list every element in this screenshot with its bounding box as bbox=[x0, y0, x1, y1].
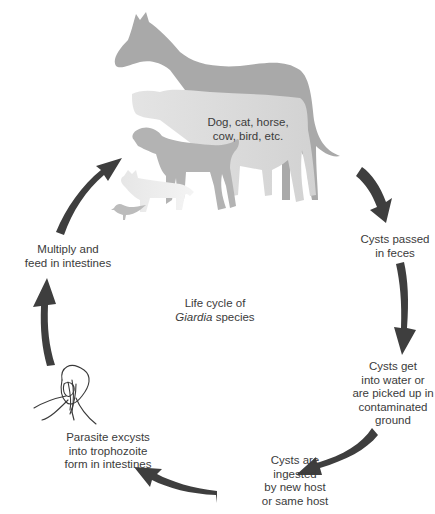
stage-line: feed in intestines bbox=[18, 257, 118, 271]
stage-line: Multiply and bbox=[18, 243, 118, 257]
stage-line: Cysts passed bbox=[355, 233, 435, 247]
stage-excystation: Parasite excysts into trophozoite form i… bbox=[58, 431, 158, 472]
giardia-trophozoite-icon bbox=[34, 365, 96, 424]
stage-cysts-passed: Cysts passed in feces bbox=[355, 233, 435, 260]
stage-line: Cysts are bbox=[252, 454, 338, 468]
hosts-label-line: Dog, cat, horse, bbox=[186, 116, 310, 130]
arrow-to-water-icon bbox=[394, 262, 416, 355]
stage-line: or same host bbox=[252, 495, 338, 509]
arrow-to-multiply-icon bbox=[33, 278, 56, 366]
genus-name: Giardia bbox=[175, 311, 212, 323]
arrow-to-excysts-icon bbox=[134, 467, 217, 503]
stage-line: into water or bbox=[348, 374, 435, 388]
arrow-to-cysts-passed-icon bbox=[356, 167, 392, 223]
diagram-title: Life cycle of Giardia species bbox=[160, 297, 270, 324]
stage-line: Cysts get bbox=[348, 360, 435, 374]
hosts-label-line: cow, bird, etc. bbox=[186, 130, 310, 144]
stage-cysts-environment: Cysts get into water or are picked up in… bbox=[348, 360, 435, 428]
stage-line: ingested bbox=[252, 468, 338, 482]
arrow-to-hosts-icon bbox=[56, 158, 122, 235]
title-line: Giardia species bbox=[160, 311, 270, 325]
stage-multiply: Multiply and feed in intestines bbox=[18, 243, 118, 270]
title-line: Life cycle of bbox=[160, 297, 270, 311]
stage-line: are picked up in bbox=[348, 387, 435, 401]
giardia-life-cycle-diagram: Dog, cat, horse, cow, bird, etc. Life cy… bbox=[0, 0, 435, 514]
stage-cysts-ingested: Cysts are ingested by new host or same h… bbox=[252, 454, 338, 508]
stage-line: ground bbox=[348, 414, 435, 428]
hosts-label: Dog, cat, horse, cow, bird, etc. bbox=[186, 116, 310, 143]
stage-line: by new host bbox=[252, 481, 338, 495]
stage-line: contaminated bbox=[348, 401, 435, 415]
stage-line: form in intestines bbox=[58, 458, 158, 472]
stage-line: Parasite excysts bbox=[58, 431, 158, 445]
title-suffix: species bbox=[212, 311, 254, 323]
stage-line: into trophozoite bbox=[58, 445, 158, 459]
stage-line: in feces bbox=[355, 247, 435, 261]
